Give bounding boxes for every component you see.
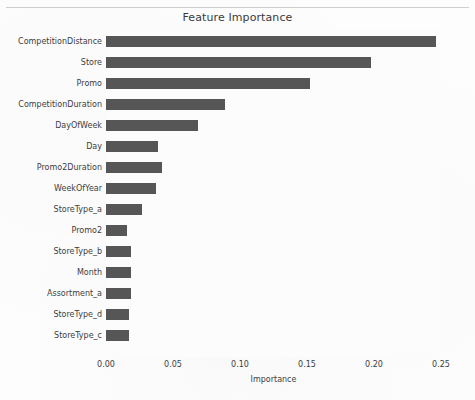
x-tick-label-0.10: 0.10 — [231, 360, 249, 369]
y-tick-label-promo2: Promo2 — [2, 225, 102, 236]
y-tick-label-promo: Promo — [2, 78, 102, 89]
x-axis-ticks: 0.000.050.100.150.200.25 — [0, 360, 475, 372]
y-tick-label-store: Store — [2, 57, 102, 68]
y-tick-label-storetype_d: StoreType_d — [2, 309, 102, 320]
bar-month — [106, 267, 131, 278]
chart-title: Feature Importance — [0, 11, 475, 24]
x-tick-label-0.05: 0.05 — [164, 360, 182, 369]
y-tick-label-storetype_a: StoreType_a — [2, 204, 102, 215]
x-tick-label-0.25: 0.25 — [432, 360, 450, 369]
bar-assortment_a — [106, 288, 131, 299]
bar-weekofyear — [106, 183, 156, 194]
bar-storetype_d — [106, 309, 129, 320]
bar-dayofweek — [106, 120, 198, 131]
bar-promo2 — [106, 225, 127, 236]
y-tick-label-competitionduration: CompetitionDuration — [2, 99, 102, 110]
y-tick-label-promo2duration: Promo2Duration — [2, 162, 102, 173]
bar-competitionduration — [106, 99, 225, 110]
x-axis-title: Importance — [106, 375, 441, 384]
x-tick-label-0.20: 0.20 — [365, 360, 383, 369]
y-tick-label-weekofyear: WeekOfYear — [2, 183, 102, 194]
bar-competitiondistance — [106, 36, 436, 47]
x-tick-label-0.00: 0.00 — [97, 360, 115, 369]
y-tick-label-month: Month — [2, 267, 102, 278]
y-tick-label-day: Day — [2, 141, 102, 152]
bar-promo2duration — [106, 162, 162, 173]
x-tick-label-0.15: 0.15 — [298, 360, 316, 369]
bar-promo — [106, 78, 310, 89]
y-tick-label-assortment_a: Assortment_a — [2, 288, 102, 299]
y-axis-labels: CompetitionDistanceStorePromoCompetition… — [0, 30, 102, 357]
bar-store — [106, 57, 371, 68]
y-tick-label-dayofweek: DayOfWeek — [2, 120, 102, 131]
y-tick-label-storetype_c: StoreType_c — [2, 330, 102, 341]
chart-page: Feature Importance CompetitionDistanceSt… — [0, 0, 475, 400]
y-tick-label-competitiondistance: CompetitionDistance — [2, 36, 102, 47]
bar-day — [106, 141, 158, 152]
bar-storetype_c — [106, 330, 129, 341]
bar-storetype_b — [106, 246, 131, 257]
y-tick-label-storetype_b: StoreType_b — [2, 246, 102, 257]
plot-area — [106, 30, 441, 357]
scan-artifact-line — [6, 7, 469, 8]
bar-storetype_a — [106, 204, 142, 215]
